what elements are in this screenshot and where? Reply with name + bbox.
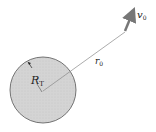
planet-circle	[10, 57, 76, 123]
velocity-arrow	[125, 14, 132, 31]
velocity-label: v0	[137, 9, 147, 21]
position-label: r0	[95, 56, 103, 67]
orbit-diagram: RT r0 v0	[0, 0, 156, 132]
